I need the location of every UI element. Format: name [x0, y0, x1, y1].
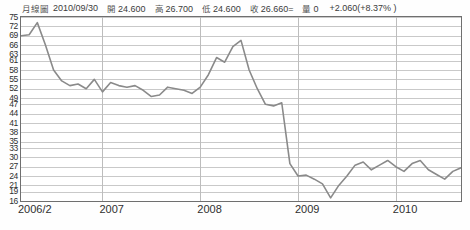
x-tick-label: 2006/2 — [18, 203, 52, 215]
high-group: 高26.700 — [155, 2, 194, 14]
plot-area — [20, 16, 462, 202]
low-group: 低24.600 — [202, 2, 241, 14]
y-tick-label: 27 — [9, 162, 18, 171]
high-label: 高 — [155, 4, 164, 14]
close-label: 收 — [250, 4, 259, 14]
x-axis: 2006/22007200820092010 — [0, 203, 470, 217]
x-tick-label: 2007 — [100, 203, 124, 215]
y-tick-label: 52 — [9, 84, 18, 93]
volume-group: 量0 — [302, 2, 318, 14]
volume-value: 0 — [313, 4, 318, 14]
y-axis: 7572696663615855524947444138353330272421… — [0, 16, 19, 202]
close-value: 26.660= — [261, 4, 294, 14]
close-group: 收26.660= — [250, 2, 294, 14]
volume-label: 量 — [302, 4, 311, 14]
x-tick-label: 2010 — [393, 203, 417, 215]
x-tick-label: 2008 — [197, 203, 221, 215]
y-tick-label: 69 — [9, 31, 18, 40]
low-label: 低 — [202, 4, 211, 14]
chart-type-label: 月線圖 — [22, 2, 49, 14]
open-label: 開 — [107, 4, 116, 14]
y-tick-label: 61 — [9, 56, 18, 65]
y-tick-label: 19 — [9, 187, 18, 196]
high-value: 26.700 — [166, 4, 194, 14]
x-tick-label: 2009 — [295, 203, 319, 215]
open-value: 24.600 — [118, 4, 146, 14]
change-value: +2.060(+8.37% ) — [329, 3, 396, 13]
low-value: 24.600 — [213, 4, 241, 14]
quote-header: 月線圖 2010/09/30 開24.600 高26.700 低24.600 收… — [0, 0, 470, 15]
y-tick-label: 44 — [9, 109, 18, 118]
open-group: 開24.600 — [107, 2, 146, 14]
price-line-series — [21, 17, 461, 201]
quote-date: 2010/09/30 — [53, 3, 98, 13]
stock-chart-widget: 月線圖 2010/09/30 開24.600 高26.700 低24.600 收… — [0, 0, 470, 230]
